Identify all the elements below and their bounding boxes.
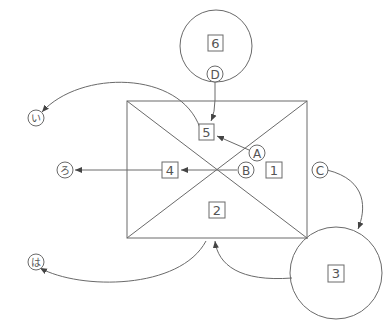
svg-text:C: C [316, 164, 324, 178]
label-ro: ろ [57, 162, 73, 178]
svg-text:1: 1 [270, 163, 278, 178]
svg-text:3: 3 [332, 266, 340, 281]
svg-text:い: い [31, 113, 41, 124]
svg-text:A: A [253, 147, 262, 161]
label-D: D [207, 66, 223, 82]
diagram-canvas: 6 5 4 1 2 3 D A B C い ろ [0, 0, 391, 336]
svg-text:ろ: ろ [60, 165, 70, 176]
box-1: 1 [266, 162, 282, 178]
box-4: 4 [162, 162, 178, 178]
arrow-A-to-5 [217, 136, 249, 150]
arrow-3-to-2 [215, 241, 292, 279]
label-B: B [238, 162, 254, 178]
arrow-2-to-ha [40, 241, 206, 282]
box-3: 3 [328, 265, 344, 282]
svg-text:6: 6 [211, 36, 219, 51]
label-C: C [312, 162, 328, 178]
svg-text:B: B [242, 164, 250, 178]
box-6: 6 [208, 35, 223, 51]
label-i: い [28, 110, 44, 126]
svg-text:4: 4 [166, 163, 174, 178]
svg-text:5: 5 [202, 125, 210, 140]
svg-text:は: は [31, 257, 41, 268]
svg-text:D: D [210, 68, 219, 82]
box-5: 5 [199, 124, 214, 140]
box-2: 2 [209, 202, 225, 218]
label-ha: は [28, 254, 44, 270]
arrow-5-to-i [42, 82, 200, 128]
label-A: A [249, 145, 265, 161]
svg-text:2: 2 [213, 203, 221, 218]
arrow-C-to-3 [327, 170, 363, 229]
